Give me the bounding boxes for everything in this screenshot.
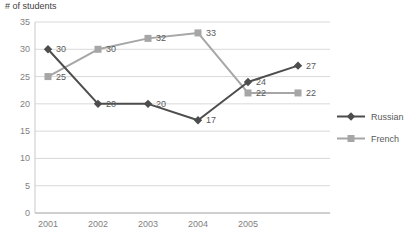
legend-item-french: French: [336, 133, 404, 144]
svg-text:20: 20: [156, 99, 166, 109]
y-axis-labels: 05101520253035: [20, 17, 30, 218]
x-axis-labels: 20012002200320042005: [38, 219, 258, 229]
svg-text:30: 30: [56, 44, 66, 54]
svg-text:20: 20: [106, 99, 116, 109]
svg-text:2003: 2003: [138, 219, 158, 229]
svg-text:25: 25: [20, 72, 30, 82]
square-marker-icon: [336, 133, 366, 144]
svg-text:0: 0: [25, 208, 30, 218]
chart-container: # of students 05101520253035200120022003…: [0, 0, 405, 238]
svg-text:32: 32: [156, 33, 166, 43]
svg-text:15: 15: [20, 126, 30, 136]
svg-text:22: 22: [256, 88, 266, 98]
svg-text:17: 17: [206, 115, 216, 125]
legend-item-russian: Russian: [336, 111, 404, 122]
svg-text:2004: 2004: [188, 219, 208, 229]
svg-text:2005: 2005: [238, 219, 258, 229]
legend-label: French: [371, 134, 399, 144]
legend-label: Russian: [371, 112, 404, 122]
svg-text:33: 33: [206, 28, 216, 38]
svg-text:30: 30: [106, 44, 116, 54]
gridlines: [35, 22, 330, 213]
svg-text:10: 10: [20, 153, 30, 163]
svg-text:30: 30: [20, 44, 30, 54]
svg-text:2002: 2002: [88, 219, 108, 229]
svg-text:35: 35: [20, 17, 30, 27]
svg-text:22: 22: [306, 88, 316, 98]
svg-text:20: 20: [20, 99, 30, 109]
svg-text:2001: 2001: [38, 219, 58, 229]
svg-text:25: 25: [56, 72, 66, 82]
svg-text:27: 27: [306, 61, 316, 71]
legend: RussianFrench: [336, 111, 404, 144]
svg-text:24: 24: [256, 77, 266, 87]
svg-text:5: 5: [25, 181, 30, 191]
diamond-marker-icon: [336, 111, 366, 122]
